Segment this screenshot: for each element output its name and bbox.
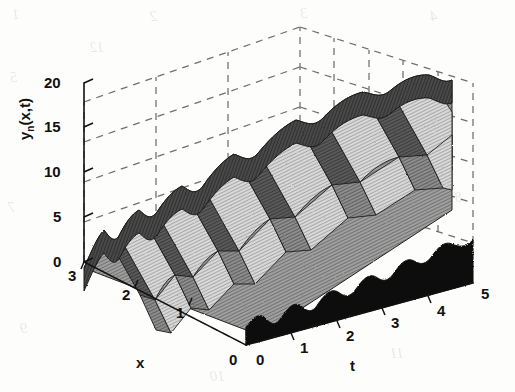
x-axis-label: x — [136, 355, 144, 370]
surface-plot-figure — [0, 0, 515, 392]
x-tick-1: 1 — [176, 305, 184, 320]
z-tick-15: 15 — [44, 119, 61, 134]
t-tick-5: 5 — [481, 286, 489, 301]
z-axis-label-sub: n — [25, 126, 36, 132]
z-axis-label-tail: (x,t) — [16, 98, 33, 126]
z-axis-label: yn(x,t) — [16, 120, 36, 140]
z-tick-10: 10 — [44, 164, 61, 179]
t-tick-3: 3 — [391, 315, 399, 330]
t-tick-4: 4 — [437, 303, 445, 318]
z-ticks — [84, 79, 93, 262]
t-tick-0: 0 — [256, 352, 264, 367]
x-tick-2: 2 — [122, 287, 130, 302]
t-tick-1: 1 — [300, 340, 308, 355]
x-tick-3: 3 — [68, 268, 76, 283]
t-axis-label: t — [350, 358, 355, 373]
z-axis-label-y: y — [16, 132, 33, 140]
t-tick-2: 2 — [346, 328, 354, 343]
z-tick-0: 0 — [53, 254, 61, 269]
x-tick-0: 0 — [229, 352, 237, 367]
z-tick-20: 20 — [44, 75, 61, 90]
z-tick-5: 5 — [53, 209, 61, 224]
